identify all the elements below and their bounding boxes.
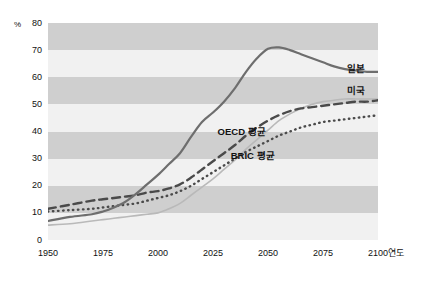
x-axis-tick-label: 2075 (300, 249, 346, 258)
series-label-japan: 일본 (347, 61, 365, 75)
y-axis-tick-label: 50 (16, 100, 42, 109)
x-axis-tick-label: 2000 (135, 249, 181, 258)
x-axis-unit-label: 연도 (388, 246, 404, 259)
x-axis-tick-label: 2025 (190, 249, 236, 258)
x-axis-tick-label: 1975 (80, 249, 126, 258)
series-line (48, 47, 378, 221)
series-label-usa: 미국 (347, 83, 365, 97)
y-axis-tick-label: 60 (16, 73, 42, 82)
y-axis-tick-label: 10 (16, 208, 42, 217)
series-line (48, 115, 378, 211)
series-label-bric: BRIC 평균 (231, 148, 275, 162)
y-axis-tick-label: 40 (16, 127, 42, 136)
series-line (48, 100, 378, 209)
chart-container: % 01020304050607080 19501975200020252050… (0, 0, 427, 286)
y-axis-tick-label: 30 (16, 154, 42, 163)
y-axis-tick-label: 20 (16, 181, 42, 190)
y-axis-tick-label: 80 (16, 19, 42, 28)
x-axis-tick-label: 1950 (25, 249, 71, 258)
series-label-oecd: OECD 평균 (218, 124, 266, 138)
series-lines (48, 23, 378, 240)
x-axis-tick-label: 2050 (245, 249, 291, 258)
plot-area (48, 23, 378, 240)
y-axis-tick-label: 70 (16, 46, 42, 55)
y-axis-tick-label: 0 (16, 236, 42, 245)
